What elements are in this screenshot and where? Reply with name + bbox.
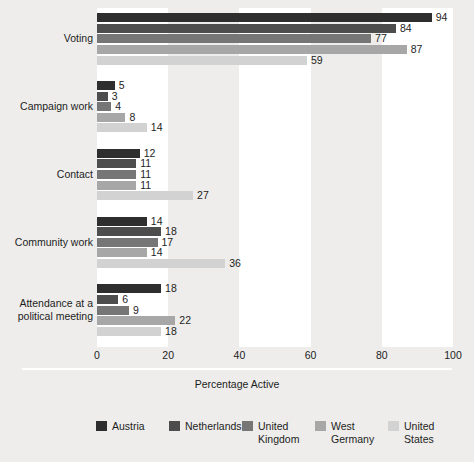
- category-label: Community work: [1, 236, 93, 249]
- bar-group: 1211111127: [97, 149, 453, 200]
- bar-row: 11: [97, 181, 453, 190]
- bar-row: 6: [97, 295, 453, 304]
- bar[interactable]: [97, 159, 136, 168]
- bar-row: 18: [97, 284, 453, 293]
- bar-chart-figure: 9484778759534814121111112714181714361869…: [0, 0, 474, 462]
- bar[interactable]: [97, 327, 161, 336]
- legend-label: United Kingdom: [258, 420, 299, 445]
- bar-value-label: 87: [411, 43, 423, 56]
- bar-row: 3: [97, 92, 453, 101]
- legend-item[interactable]: Austria: [96, 420, 169, 433]
- bar[interactable]: [97, 217, 147, 226]
- legend-item[interactable]: Netherlands: [169, 420, 242, 433]
- bar[interactable]: [97, 316, 175, 325]
- bar[interactable]: [97, 306, 129, 315]
- legend-swatch: [315, 421, 326, 431]
- bar-row: 14: [97, 248, 453, 257]
- bar[interactable]: [97, 149, 140, 158]
- legend-item[interactable]: United Kingdom: [242, 420, 315, 445]
- axis-separator-rule: [22, 368, 452, 370]
- bar-row: 4: [97, 102, 453, 111]
- bar[interactable]: [97, 102, 111, 111]
- bar-value-label: 27: [197, 189, 209, 202]
- bar[interactable]: [97, 170, 136, 179]
- bar-value-label: 4: [115, 100, 121, 113]
- bar[interactable]: [97, 238, 158, 247]
- bar-value-label: 59: [311, 54, 323, 67]
- bar-value-label: 94: [436, 11, 448, 24]
- bar[interactable]: [97, 45, 407, 54]
- bar-value-label: 6: [122, 293, 128, 306]
- bar-value-label: 18: [165, 282, 177, 295]
- bar[interactable]: [97, 13, 432, 22]
- legend-label: Netherlands: [185, 420, 242, 433]
- category-label: Contact: [1, 168, 93, 181]
- category-label: Attendance at apolitical meeting: [1, 297, 93, 323]
- bar-value-label: 36: [229, 257, 241, 270]
- x-tick-label: 80: [376, 348, 388, 362]
- bar-value-label: 14: [151, 215, 163, 228]
- bar[interactable]: [97, 259, 225, 268]
- legend-swatch: [169, 421, 180, 431]
- bar-value-label: 84: [400, 22, 412, 35]
- bar[interactable]: [97, 295, 118, 304]
- legend-swatch: [242, 421, 253, 431]
- bar-row: 5: [97, 81, 453, 90]
- bar-group: 18692218: [97, 284, 453, 335]
- bar-row: 18: [97, 327, 453, 336]
- x-tick-label: 60: [305, 348, 317, 362]
- bar-row: 59: [97, 56, 453, 65]
- legend: AustriaNetherlandsUnited KingdomWest Ger…: [96, 420, 462, 445]
- bar-value-label: 9: [133, 304, 139, 317]
- bar-row: 87: [97, 45, 453, 54]
- legend-label: United States: [404, 420, 434, 445]
- bar-row: 18: [97, 227, 453, 236]
- bar-row: 9: [97, 306, 453, 315]
- plot-area: 9484778759534814121111112714181714361869…: [97, 8, 453, 347]
- bar-value-label: 11: [140, 179, 151, 192]
- bar-value-label: 17: [162, 236, 174, 249]
- bar[interactable]: [97, 123, 147, 132]
- bar-group: 9484778759: [97, 13, 453, 64]
- category-label: Voting: [1, 32, 93, 45]
- bar-value-label: 5: [119, 79, 125, 92]
- bar-value-label: 14: [151, 121, 163, 134]
- x-tick-label: 40: [234, 348, 246, 362]
- bar-value-label: 22: [179, 314, 191, 327]
- category-label: Campaign work: [1, 100, 93, 113]
- bar[interactable]: [97, 284, 161, 293]
- bar-row: 22: [97, 316, 453, 325]
- bar-group: 1418171436: [97, 217, 453, 268]
- legend-label: West Germany: [331, 420, 374, 445]
- bar[interactable]: [97, 56, 307, 65]
- bar[interactable]: [97, 24, 396, 33]
- bar[interactable]: [97, 227, 161, 236]
- bar[interactable]: [97, 191, 193, 200]
- x-tick-label: 20: [162, 348, 174, 362]
- legend-item[interactable]: West Germany: [315, 420, 388, 445]
- x-axis-title: Percentage Active: [0, 378, 474, 390]
- x-tick-label: 100: [444, 348, 462, 362]
- bar-row: 14: [97, 217, 453, 226]
- bar-row: 36: [97, 259, 453, 268]
- bar-row: 84: [97, 24, 453, 33]
- x-tick-label: 0: [94, 348, 100, 362]
- x-axis-ticks: 020406080100: [97, 348, 453, 364]
- bar-value-label: 18: [165, 325, 177, 338]
- bar-row: 14: [97, 123, 453, 132]
- legend-swatch: [96, 421, 107, 431]
- bar-row: 27: [97, 191, 453, 200]
- legend-item[interactable]: United States: [388, 420, 461, 445]
- bar-value-label: 77: [375, 32, 387, 45]
- bar-group: 534814: [97, 81, 453, 132]
- bar[interactable]: [97, 34, 371, 43]
- bar[interactable]: [97, 113, 125, 122]
- bar-row: 77: [97, 34, 453, 43]
- bar[interactable]: [97, 181, 136, 190]
- legend-label: Austria: [112, 420, 145, 433]
- bar[interactable]: [97, 248, 147, 257]
- bar-value-label: 14: [151, 246, 163, 259]
- bar-value-label: 8: [129, 111, 135, 124]
- bar[interactable]: [97, 92, 108, 101]
- legend-swatch: [388, 421, 399, 431]
